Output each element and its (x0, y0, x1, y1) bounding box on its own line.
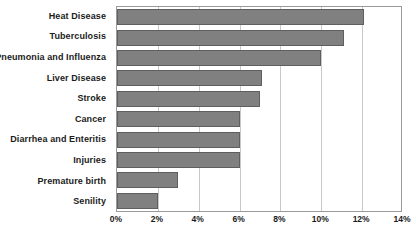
bar (117, 9, 364, 25)
category-label: Cancer (75, 115, 106, 124)
category-label: Senility (73, 197, 106, 206)
category-label-row: Injuries (0, 150, 111, 171)
x-axis-tick-label: 6% (232, 213, 244, 225)
bar (117, 50, 321, 66)
bar (117, 111, 240, 127)
bar-chart: Heat DiseaseTuberculosisPneumonia and In… (0, 0, 416, 237)
category-label-row: Heat Disease (0, 6, 111, 27)
bar-row (117, 27, 401, 47)
category-label: Heat Disease (49, 12, 106, 21)
bars-layer (117, 7, 401, 211)
category-label: Tuberculosis (49, 32, 106, 41)
x-axis-tick-label: 0% (110, 213, 122, 225)
bar (117, 70, 262, 86)
bar-row (117, 48, 401, 68)
category-label-row: Stroke (0, 88, 111, 109)
bar-row (117, 109, 401, 129)
bottom-clipped-caption (6, 229, 206, 237)
category-label-row: Pneumonia and Influenza (0, 47, 111, 68)
category-label-row: Senility (0, 191, 111, 212)
bar-row (117, 89, 401, 109)
value-axis-labels: 0%2%4%6%8%10%12%14% (0, 213, 416, 227)
category-label-row: Tuberculosis (0, 27, 111, 48)
bar-row (117, 129, 401, 149)
category-label: Premature birth (37, 177, 106, 186)
category-label: Diarrhea and Enteritis (10, 135, 106, 144)
bar (117, 152, 240, 168)
category-label: Injuries (73, 156, 106, 165)
bar (117, 132, 240, 148)
bar (117, 30, 344, 46)
x-axis-tick-label: 2% (151, 213, 163, 225)
bar-row (117, 68, 401, 88)
x-axis-tick-label: 8% (273, 213, 285, 225)
bar (117, 91, 260, 107)
category-label-row: Diarrhea and Enteritis (0, 130, 111, 151)
category-label: Liver Disease (47, 74, 106, 83)
bar (117, 172, 178, 188)
x-axis-tick-label: 10% (312, 213, 329, 225)
bar-row (117, 191, 401, 211)
x-axis-tick-label: 12% (353, 213, 370, 225)
bar-row (117, 170, 401, 190)
x-axis-tick-label: 4% (192, 213, 204, 225)
category-label-row: Premature birth (0, 171, 111, 192)
category-axis-labels: Heat DiseaseTuberculosisPneumonia and In… (0, 6, 111, 212)
bar-row (117, 7, 401, 27)
category-label-row: Liver Disease (0, 68, 111, 89)
bar (117, 193, 158, 209)
plot-area (116, 6, 402, 212)
bar-row (117, 150, 401, 170)
category-label-row: Cancer (0, 109, 111, 130)
category-label: Pneumonia and Influenza (0, 53, 106, 62)
category-label: Stroke (77, 94, 106, 103)
x-axis-tick-label: 14% (393, 213, 410, 225)
